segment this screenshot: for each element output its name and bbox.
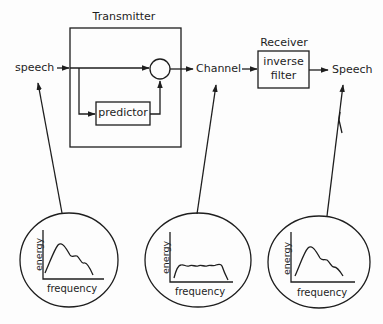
middle-spectrum-curve xyxy=(174,264,228,280)
predictor-label: predictor xyxy=(96,107,150,119)
middle-pointer-line xyxy=(197,85,216,214)
left-spectrum-curve xyxy=(45,244,93,275)
summing-node xyxy=(150,59,170,79)
inverse-filter-label-line2: filter xyxy=(258,70,309,82)
right-pointer-kink xyxy=(339,112,342,133)
middle-frequency-axis-label: frequency xyxy=(168,286,232,298)
right-plot-axes xyxy=(291,232,355,282)
receiver-title: Receiver xyxy=(254,37,314,49)
channel-label: Channel xyxy=(196,63,241,75)
transmitter-title: Transmitter xyxy=(92,11,156,23)
left-pointer-line xyxy=(38,83,62,213)
right-pointer-line xyxy=(327,85,343,216)
transmitter-box xyxy=(70,28,181,147)
linear-prediction-diagram: Transmitter speech predictor Channel Rec… xyxy=(0,0,383,324)
middle-energy-axis-label: energy xyxy=(160,236,171,280)
left-plot-axes xyxy=(43,230,104,279)
output-speech-label: Speech xyxy=(332,64,373,76)
predictor-output-line xyxy=(150,81,160,114)
middle-plot-axes xyxy=(170,232,233,282)
left-frequency-axis-label: frequency xyxy=(40,283,104,295)
right-frequency-axis-label: frequency xyxy=(290,287,354,299)
right-energy-axis-label: energy xyxy=(281,237,292,281)
diagram-graphics xyxy=(0,0,383,324)
right-spectrum-curve xyxy=(295,247,343,276)
inverse-filter-label-line1: inverse xyxy=(258,56,309,68)
predictor-branch-line xyxy=(79,68,95,114)
left-energy-axis-label: energy xyxy=(33,233,44,277)
input-speech-label: speech xyxy=(15,62,54,74)
